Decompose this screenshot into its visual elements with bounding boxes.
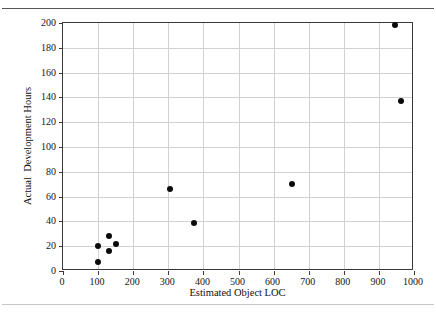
plot-area bbox=[62, 22, 413, 270]
data-point bbox=[392, 22, 398, 28]
data-point bbox=[106, 248, 112, 254]
y-axis-tick bbox=[59, 48, 63, 49]
y-axis-tick bbox=[59, 73, 63, 74]
data-point bbox=[106, 233, 112, 239]
x-tick-label: 600 bbox=[253, 276, 293, 287]
bottom-divider-rule bbox=[2, 304, 434, 305]
y-axis-tick bbox=[59, 23, 63, 24]
x-axis-tick bbox=[414, 271, 415, 275]
gridline-vertical bbox=[309, 23, 310, 269]
y-axis-title: Actual Development Hours bbox=[22, 22, 36, 270]
gridline-vertical bbox=[203, 23, 204, 269]
x-axis-tick bbox=[203, 271, 204, 275]
x-axis-tick bbox=[63, 271, 64, 275]
gridline-horizontal bbox=[63, 122, 412, 123]
gridline-vertical bbox=[239, 23, 240, 269]
x-tick-label: 100 bbox=[77, 276, 117, 287]
y-axis-tick bbox=[59, 246, 63, 247]
x-axis-tick bbox=[133, 271, 134, 275]
scatter-plot-figure: 01002003004005006007008009001000 0204060… bbox=[0, 0, 436, 313]
data-point bbox=[95, 259, 101, 265]
x-axis-title: Estimated Object LOC bbox=[62, 287, 413, 298]
x-axis-tick bbox=[98, 271, 99, 275]
gridline-horizontal bbox=[63, 48, 412, 49]
y-axis-tick bbox=[59, 197, 63, 198]
gridline-vertical bbox=[344, 23, 345, 269]
x-axis-tick bbox=[344, 271, 345, 275]
gridline-horizontal bbox=[63, 97, 412, 98]
gridline-horizontal bbox=[63, 147, 412, 148]
gridline-vertical bbox=[98, 23, 99, 269]
gridline-horizontal bbox=[63, 73, 412, 74]
gridline-vertical bbox=[133, 23, 134, 269]
x-tick-label: 200 bbox=[112, 276, 152, 287]
x-axis-tick bbox=[168, 271, 169, 275]
x-tick-label: 800 bbox=[323, 276, 363, 287]
y-axis-tick bbox=[59, 271, 63, 272]
gridline-horizontal bbox=[63, 221, 412, 222]
gridline-vertical bbox=[168, 23, 169, 269]
data-point bbox=[167, 186, 173, 192]
y-axis-tick bbox=[59, 221, 63, 222]
data-point bbox=[191, 220, 197, 226]
x-tick-label: 1000 bbox=[393, 276, 433, 287]
y-axis-tick bbox=[59, 122, 63, 123]
gridline-horizontal bbox=[63, 172, 412, 173]
gridline-vertical bbox=[379, 23, 380, 269]
x-tick-label: 300 bbox=[147, 276, 187, 287]
x-tick-label: 700 bbox=[288, 276, 328, 287]
data-point bbox=[289, 181, 295, 187]
top-divider-rule bbox=[2, 8, 434, 9]
x-axis-tick bbox=[379, 271, 380, 275]
gridline-vertical bbox=[274, 23, 275, 269]
data-point bbox=[95, 243, 101, 249]
data-point bbox=[398, 98, 404, 104]
x-axis-tick bbox=[309, 271, 310, 275]
x-tick-label: 900 bbox=[358, 276, 398, 287]
y-axis-tick bbox=[59, 172, 63, 173]
gridline-horizontal bbox=[63, 197, 412, 198]
x-tick-label: 0 bbox=[42, 276, 82, 287]
x-axis-tick bbox=[239, 271, 240, 275]
x-tick-label: 400 bbox=[182, 276, 222, 287]
x-tick-label: 500 bbox=[218, 276, 258, 287]
x-axis-tick bbox=[274, 271, 275, 275]
y-axis-tick bbox=[59, 147, 63, 148]
y-axis-tick bbox=[59, 97, 63, 98]
